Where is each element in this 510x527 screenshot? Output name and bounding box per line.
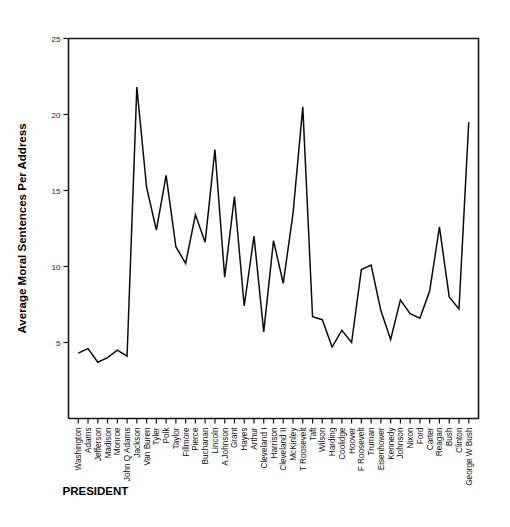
x-axis-tick-label: Adams: [84, 428, 93, 453]
x-axis-tick-label: Kennedy: [387, 427, 396, 460]
x-axis-tick-label: Johnson: [396, 427, 405, 458]
x-axis-tick-label: Cleveland I: [260, 428, 269, 469]
x-axis-tick-label: Tyler: [152, 427, 161, 445]
x-axis-tick-label: Washington: [74, 427, 83, 470]
x-axis-tick-label: McKinley: [289, 427, 298, 461]
x-axis-tick-label: Buchanan: [201, 427, 210, 464]
x-axis-tick-label: George W Bush: [465, 427, 474, 486]
x-axis-tick-label: Taylor: [172, 427, 181, 449]
x-axis-tick-label: Harding: [328, 427, 337, 456]
x-axis-tick-label: A Johnson: [221, 427, 230, 466]
x-axis-tick-label: Harrison: [270, 427, 279, 458]
y-axis-tick-label: 20: [52, 111, 61, 120]
x-axis-tick-label: Truman: [367, 427, 376, 455]
x-axis-tick-label: Polk: [162, 427, 171, 444]
x-axis-tick-label: Wilson: [318, 427, 327, 452]
x-axis-tick-label: T Roosevelt: [299, 427, 308, 471]
x-axis-tick-label: Lincoln: [211, 427, 220, 453]
x-axis-tick-label: Cleveland II: [279, 428, 288, 471]
x-axis-tick-label: Eisenhower: [377, 427, 386, 470]
x-axis-tick-label: Arthur: [250, 427, 259, 450]
x-axis-tick-label: Hoover: [348, 427, 357, 454]
x-axis-tick-label: Bush: [445, 427, 454, 446]
x-axis-tick-label: Nixon: [406, 427, 415, 448]
x-axis-tick-label: F Roosevelt: [357, 427, 366, 471]
x-axis-tick-label: John Q Adams: [123, 428, 132, 482]
chart-figure: 510152025WashingtonAdamsJeffersonMadison…: [0, 0, 510, 527]
y-axis-tick-label: 10: [52, 263, 61, 272]
y-axis-title: Average Moral Sentences Per Address: [16, 123, 28, 333]
plot-frame: [69, 39, 479, 419]
x-axis-tick-label: Jackson: [133, 427, 142, 457]
line-chart: 510152025WashingtonAdamsJeffersonMadison…: [0, 0, 510, 527]
x-axis-tick-label: Pierce: [191, 427, 200, 451]
x-axis-tick-label: Monroe: [113, 427, 122, 455]
x-axis-tick-label: Madison: [104, 427, 113, 458]
x-axis-title: PRESIDENT: [63, 485, 129, 497]
y-axis-tick-label: 25: [52, 35, 61, 44]
x-axis-tick-label: Ford: [416, 427, 425, 444]
x-axis-tick-label: Reagan: [435, 427, 444, 456]
x-axis-tick-label: Van Buren: [143, 427, 152, 466]
x-axis-tick-label: Carter: [426, 427, 435, 450]
x-axis-tick-label: Coolidge: [338, 427, 347, 460]
x-axis-tick-label: Clinton: [455, 427, 464, 453]
x-axis-tick-label: Taft: [309, 427, 318, 441]
x-axis-tick-label: Fillmore: [182, 427, 191, 457]
data-series-line: [78, 87, 468, 362]
x-axis-tick-label: Jefferson: [94, 427, 103, 461]
y-axis-tick-label: 5: [56, 339, 61, 348]
x-axis-tick-label: Hayes: [240, 428, 249, 451]
x-axis-tick-label: Grant: [230, 427, 239, 448]
y-axis-tick-label: 15: [52, 187, 61, 196]
